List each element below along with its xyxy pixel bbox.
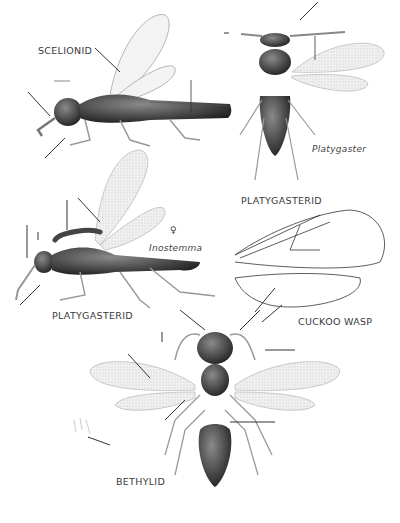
label-platygasterid-top: PLATYGASTERID: [241, 195, 322, 206]
label-cuckoo-wasp: CUCKOO WASP: [298, 316, 372, 327]
label-bethylid: BETHYLID: [116, 476, 165, 487]
inostemma-illustration: [16, 150, 215, 308]
bethylid-illustration: [74, 310, 340, 487]
label-platygaster: Platygaster: [312, 144, 366, 154]
label-platygasterid-left: PLATYGASTERID: [52, 310, 133, 321]
scelionid-illustration: [28, 14, 231, 158]
label-scelionid: SCELIONID: [38, 45, 92, 56]
label-inostemma: Inostemma: [149, 243, 202, 253]
insect-plate-illustration: [0, 0, 400, 523]
label-female-symbol: ♀: [170, 225, 177, 235]
cuckoo-wasp-wing-illustration: [235, 210, 385, 322]
